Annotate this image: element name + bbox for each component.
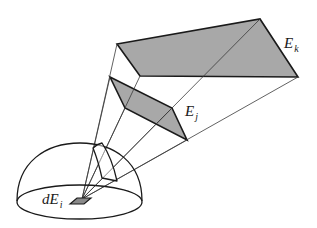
projected-patch [93, 143, 117, 181]
label-ek-base: E [284, 35, 293, 51]
label-dei: dEi [42, 192, 62, 210]
label-dei-sub: i [60, 199, 63, 210]
hemisphere-dome [17, 143, 142, 201]
label-ek-sub: k [294, 43, 298, 54]
label-ej-sub: j [195, 111, 198, 122]
label-ej-base: E [185, 103, 194, 119]
form-factor-diagram: Ek Ej dEi [0, 0, 317, 228]
surface-ek [117, 19, 298, 77]
label-dei-base: dE [42, 191, 59, 207]
label-ek: Ek [284, 36, 299, 54]
label-ej: Ej [185, 104, 198, 122]
surface-ej [110, 77, 187, 140]
differential-element-dei [70, 198, 91, 204]
